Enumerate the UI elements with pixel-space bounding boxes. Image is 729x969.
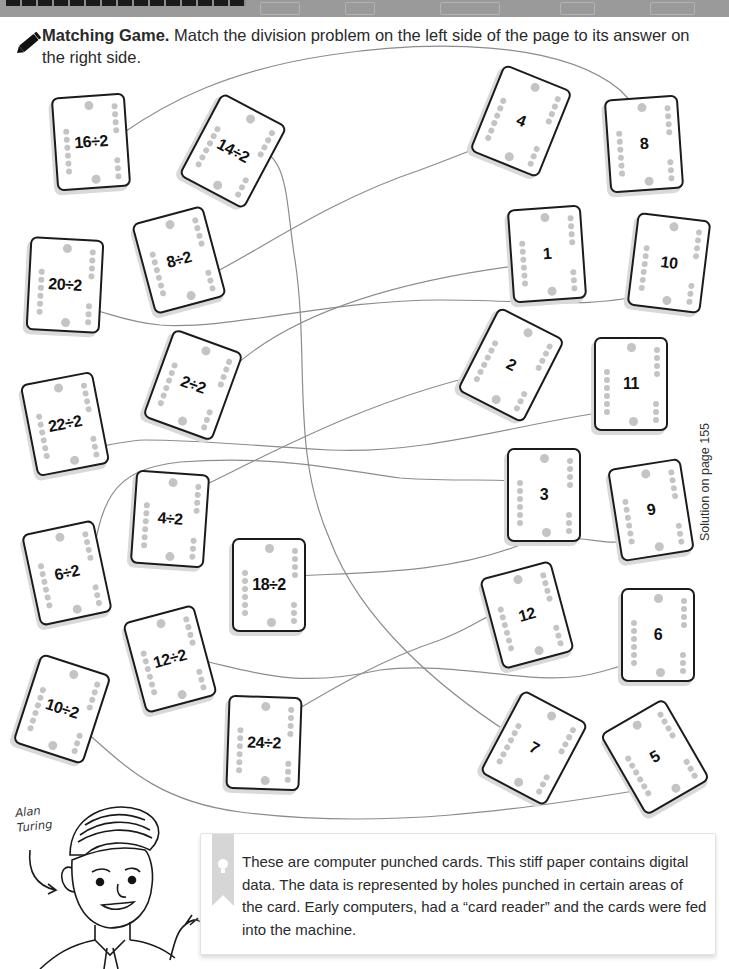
punch-hole	[530, 152, 538, 160]
punch-hole	[291, 602, 297, 608]
answer-card[interactable]: 3	[507, 448, 581, 542]
punch-hole	[196, 668, 203, 675]
header-banner	[0, 0, 729, 17]
punch-hole	[535, 787, 543, 795]
answer-card[interactable]: 2	[457, 306, 566, 423]
punch-hole	[189, 553, 195, 559]
punch-hole	[84, 398, 91, 405]
punch-hole	[222, 366, 230, 374]
punch-hole	[656, 668, 665, 677]
punch-hole	[95, 599, 102, 606]
answer-card[interactable]: 5	[599, 698, 710, 816]
punch-hole	[91, 689, 99, 697]
punch-hole	[604, 393, 610, 399]
punch-hole	[94, 592, 101, 599]
punch-hole	[477, 368, 485, 376]
punch-hole	[629, 417, 638, 426]
punch-hole	[200, 424, 208, 432]
punch-hole	[168, 478, 178, 488]
answer-card[interactable]: 4	[469, 64, 573, 179]
punch-hole	[641, 469, 651, 479]
punch-hole	[209, 285, 216, 292]
punch-hole	[513, 404, 521, 412]
problem-card[interactable]: 10÷2	[12, 653, 111, 765]
punch-hole	[82, 390, 89, 397]
punch-hole	[551, 103, 559, 111]
punch-hole	[190, 545, 196, 551]
answer-card[interactable]: 12	[479, 560, 575, 670]
punch-hole	[291, 618, 297, 624]
punch-hole	[288, 707, 294, 713]
banner-decoration	[650, 2, 695, 15]
punch-hole	[639, 277, 646, 284]
punch-hole	[61, 318, 70, 327]
punch-hole	[292, 548, 298, 554]
banner-title-obscured	[6, 0, 246, 6]
punch-hole	[667, 159, 673, 165]
punch-hole	[285, 761, 291, 767]
problem-card[interactable]: 20÷2	[26, 236, 105, 334]
punch-hole	[668, 167, 674, 173]
punch-hole	[242, 594, 248, 600]
banner-decoration	[440, 2, 500, 15]
punch-hole	[644, 176, 654, 186]
punch-hole	[157, 282, 164, 289]
punch-hole	[84, 101, 94, 111]
punch-hole	[183, 616, 190, 623]
problem-card[interactable]: 6÷2	[21, 519, 113, 626]
punch-hole	[507, 645, 514, 652]
punch-hole	[677, 530, 684, 537]
punch-hole	[665, 121, 671, 127]
punch-hole	[187, 631, 194, 638]
punch-hole	[670, 485, 677, 492]
answer-card[interactable]: 8	[604, 95, 684, 194]
punch-hole	[90, 249, 96, 255]
punch-hole	[288, 715, 294, 721]
answer-card[interactable]: 11	[594, 337, 668, 431]
punch-hole	[570, 269, 576, 275]
punch-hole	[236, 767, 242, 773]
punch-hole	[540, 572, 547, 579]
punch-hole	[112, 119, 118, 125]
punch-hole	[196, 232, 203, 239]
problem-card[interactable]: 8÷2	[131, 205, 227, 315]
problem-card-label: 18÷2	[234, 576, 304, 594]
hand	[170, 915, 200, 960]
problem-card[interactable]: 22÷2	[20, 371, 111, 477]
answer-card[interactable]: 6	[621, 588, 695, 682]
punch-hole	[89, 265, 95, 271]
problem-card[interactable]: 18÷2	[232, 538, 306, 632]
punch-hole	[631, 719, 643, 731]
punch-hole	[686, 298, 693, 305]
answer-card[interactable]: 7	[479, 689, 588, 807]
problem-card[interactable]: 12÷2	[122, 604, 218, 714]
answer-card[interactable]: 10	[627, 212, 712, 314]
punch-hole	[85, 546, 92, 553]
punch-hole	[631, 652, 637, 658]
answer-card[interactable]: 9	[607, 458, 695, 562]
punch-hole	[604, 401, 610, 407]
punch-hole	[513, 776, 525, 788]
problem-card[interactable]: 24÷2	[225, 695, 302, 792]
punch-hole	[198, 153, 206, 161]
punch-hole	[540, 213, 550, 223]
punch-hole	[561, 740, 569, 748]
problem-card[interactable]: 4÷2	[130, 470, 210, 569]
problem-card[interactable]: 16÷2	[51, 93, 131, 192]
problem-card-label: 2÷2	[157, 365, 229, 406]
punch-hole	[545, 710, 557, 722]
punch-hole	[662, 296, 672, 306]
punch-hole	[670, 782, 682, 794]
punch-hole	[567, 466, 573, 472]
punch-hole	[565, 733, 573, 741]
punch-hole	[571, 277, 577, 283]
punch-hole	[195, 160, 203, 168]
punch-hole	[547, 286, 557, 296]
answer-card[interactable]: 1	[507, 205, 587, 304]
punch-hole	[234, 190, 242, 198]
problem-card[interactable]: 14÷2	[178, 92, 287, 210]
punch-hole	[631, 660, 637, 666]
punch-hole	[669, 222, 679, 232]
punch-hole	[553, 624, 560, 631]
problem-card[interactable]: 2÷2	[142, 328, 244, 442]
